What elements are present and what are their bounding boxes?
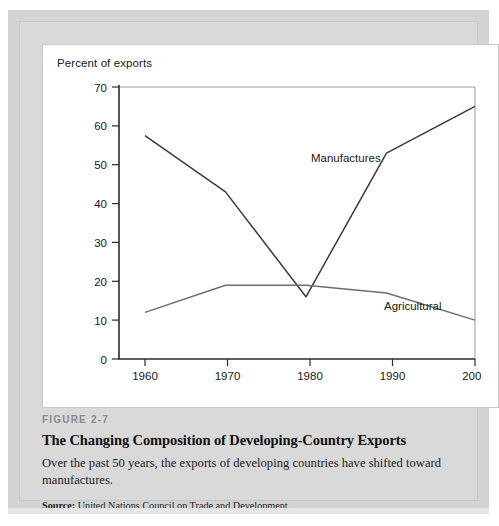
x-axis-ticks: [145, 359, 475, 366]
x-tick-label: 2001: [462, 370, 482, 382]
page-root: Percent of exports: [0, 0, 499, 526]
x-axis-tick-labels: 1960 1970 1980 1990 2001: [132, 370, 482, 382]
x-tick-label: 1960: [132, 370, 158, 382]
figure-caption: FIGURE 2-7 The Changing Composition of D…: [42, 414, 497, 512]
y-tick-label: 50: [94, 159, 107, 171]
line-chart-plot: 70 60 50 40 30 20 10 0: [79, 81, 482, 386]
y-tick-label: 40: [94, 198, 107, 210]
y-tick-label: 60: [94, 120, 107, 132]
y-axis-label: Percent of exports: [57, 57, 152, 69]
x-tick-label: 1990: [380, 370, 406, 382]
chart-svg: 70 60 50 40 30 20 10 0: [79, 81, 482, 386]
figure-number: FIGURE 2-7: [42, 414, 497, 425]
y-axis-tick-labels: 70 60 50 40 30 20 10 0: [94, 82, 107, 366]
figure-plate: Percent of exports: [8, 10, 489, 512]
x-tick-label: 1980: [297, 370, 323, 382]
series-line-manufactures: [145, 106, 475, 296]
chart-card: Percent of exports: [42, 44, 499, 408]
series-annotation-manufactures: Manufactures: [311, 152, 381, 164]
y-tick-label: 70: [94, 82, 107, 94]
x-tick-label: 1970: [215, 370, 241, 382]
y-tick-label: 10: [94, 315, 107, 327]
axis-frame: [118, 85, 475, 359]
y-tick-label: 0: [101, 354, 107, 366]
figure-plate-inner: Percent of exports: [20, 22, 477, 500]
figure-description: Over the past 50 years, the exports of d…: [42, 455, 472, 490]
figure-title: The Changing Composition of Developing-C…: [42, 432, 497, 449]
y-axis-ticks: [112, 87, 119, 359]
plate-shadow: [8, 508, 489, 514]
y-tick-label: 30: [94, 237, 107, 249]
series-annotation-agricultural: Agricultural: [384, 300, 442, 312]
y-tick-label: 20: [94, 276, 107, 288]
